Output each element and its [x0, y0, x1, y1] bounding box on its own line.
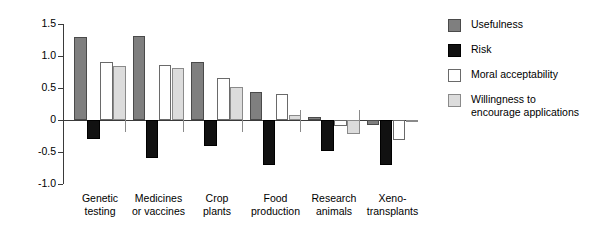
legend-item[interactable]: Risk — [448, 43, 592, 57]
legend-swatch-icon — [448, 44, 461, 57]
y-tick-label: -1.0 — [38, 177, 56, 189]
legend-swatch-icon — [448, 94, 461, 107]
group-separator-tick — [300, 110, 301, 132]
bar-group — [133, 24, 185, 184]
bar — [87, 120, 100, 139]
bar — [308, 117, 321, 120]
legend-swatch-icon — [448, 69, 461, 82]
bar-group — [308, 24, 360, 184]
bar — [263, 120, 276, 165]
bar — [406, 120, 419, 122]
bar — [230, 87, 243, 120]
bar-group — [191, 24, 243, 184]
bar — [380, 120, 393, 165]
legend-label: Moral acceptability — [471, 68, 558, 81]
bar — [159, 65, 172, 120]
bar — [100, 62, 113, 120]
y-tick-mark — [58, 88, 63, 89]
bar-group — [250, 24, 302, 184]
chart-legend: UsefulnessRiskMoral acceptabilityWilling… — [448, 18, 592, 129]
bar — [113, 66, 126, 120]
legend-item[interactable]: Willingness to encourage applications — [448, 93, 592, 118]
bar — [191, 62, 204, 120]
y-tick-label: 0.5 — [41, 81, 56, 93]
y-tick-label: -0.5 — [38, 145, 56, 157]
y-tick-mark — [58, 152, 63, 153]
bar-group — [74, 24, 126, 184]
bar — [133, 36, 146, 120]
legend-label: Risk — [471, 43, 491, 56]
x-axis-label-line: Xeno- — [348, 192, 438, 205]
y-tick-label: 1.0 — [41, 49, 56, 61]
y-tick-mark — [58, 120, 63, 121]
y-tick-mark — [58, 184, 63, 185]
legend-label: Usefulness — [471, 18, 523, 31]
y-tick-mark — [58, 24, 63, 25]
legend-swatch-icon — [448, 19, 461, 32]
bar — [204, 120, 217, 146]
y-tick-mark — [58, 56, 63, 57]
legend-item[interactable]: Moral acceptability — [448, 68, 592, 82]
bar — [347, 120, 360, 134]
bar — [393, 120, 406, 140]
bar — [276, 94, 289, 120]
bar — [289, 115, 302, 120]
bar — [172, 68, 185, 120]
x-axis-label-line: transplants — [348, 205, 438, 218]
y-tick-label: 1.5 — [41, 17, 56, 29]
chart-page: Negative/positive evaluation 1.51.00.50-… — [0, 0, 592, 249]
bar — [367, 120, 380, 125]
bar-group — [367, 24, 419, 184]
bar — [250, 92, 263, 120]
bar — [321, 120, 334, 151]
bar — [334, 120, 347, 126]
plot-area: 1.51.00.50-0.5-1.0 — [63, 24, 415, 184]
bar — [217, 78, 230, 120]
x-axis-label: Xeno-transplants — [348, 192, 438, 217]
y-tick-label: 0 — [50, 113, 56, 125]
bar — [146, 120, 159, 158]
y-axis-line — [63, 24, 64, 184]
legend-item[interactable]: Usefulness — [448, 18, 592, 32]
legend-label: Willingness to encourage applications — [471, 93, 579, 118]
bar — [74, 37, 87, 120]
